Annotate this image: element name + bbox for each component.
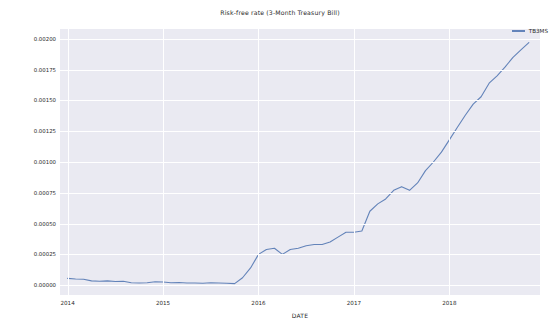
x-axis-label: DATE — [60, 312, 540, 319]
x-axis-tick-label: 2014 — [61, 300, 75, 306]
gridline-horizontal — [60, 100, 540, 101]
x-axis-tick-label: 2015 — [156, 300, 170, 306]
gridline-horizontal — [60, 224, 540, 225]
legend-line-swatch — [512, 30, 525, 31]
gridline-horizontal — [60, 39, 540, 40]
x-axis-tick-labels: 20142015201620172018 — [60, 300, 540, 312]
y-axis-tick-label: 0.00075 — [2, 190, 56, 196]
x-axis-tick-label: 2018 — [442, 300, 456, 306]
gridline-horizontal — [60, 70, 540, 71]
gridline-vertical — [68, 29, 69, 295]
plot-area — [60, 29, 540, 295]
gridline-horizontal — [60, 193, 540, 194]
y-axis-tick-labels: 0.000000.000250.000500.000750.001000.001… — [0, 29, 56, 295]
chart-title: Risk-free rate (3-Month Treasury Bill) — [0, 9, 560, 16]
gridline-horizontal — [60, 162, 540, 163]
y-axis-tick-label: 0.00150 — [2, 97, 56, 103]
gridline-vertical — [163, 29, 164, 295]
gridline-horizontal — [60, 254, 540, 255]
gridline-vertical — [354, 29, 355, 295]
x-axis-tick-label: 2016 — [251, 300, 265, 306]
y-axis-tick-label: 0.00125 — [2, 128, 56, 134]
y-axis-tick-label: 0.00175 — [2, 67, 56, 73]
legend-label-tb3ms: TB3MS — [529, 28, 548, 34]
y-axis-tick-label: 0.00200 — [2, 36, 56, 42]
chart-legend: TB3MS — [508, 26, 552, 36]
y-axis-tick-label: 0.00100 — [2, 159, 56, 165]
chart-figure: Risk-free rate (3-Month Treasury Bill) 0… — [0, 0, 560, 333]
y-axis-tick-label: 0.00025 — [2, 251, 56, 257]
x-axis-tick-label: 2017 — [347, 300, 361, 306]
y-axis-tick-label: 0.00050 — [2, 221, 56, 227]
gridline-horizontal — [60, 131, 540, 132]
gridline-horizontal — [60, 285, 540, 286]
y-axis-tick-label: 0.00000 — [2, 282, 56, 288]
gridline-vertical — [449, 29, 450, 295]
gridline-vertical — [258, 29, 259, 295]
